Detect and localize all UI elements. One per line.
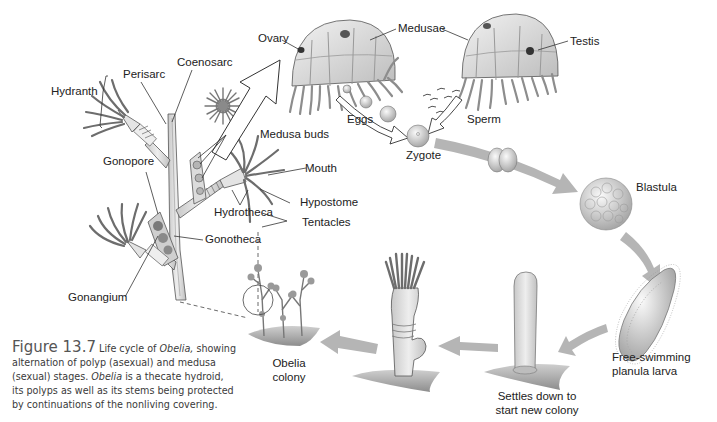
figure-caption: Figure 13.7 Life cycle of Obelia, showin… [12, 340, 237, 412]
label-coenosarc: Coenosarc [177, 57, 233, 69]
label-perisarc: Perisarc [123, 69, 165, 81]
caption-part: Obelia, [160, 343, 194, 354]
gonotheca-bud [164, 246, 173, 255]
label-hypostome: Hypostome [300, 197, 358, 209]
zygote [407, 125, 429, 147]
medusa-bud [193, 161, 201, 169]
hydrotheca-cup-lower-left [126, 240, 146, 258]
label-gonopore: Gonopore [103, 156, 154, 168]
medusa-bud [197, 188, 204, 195]
young-polyp [352, 254, 440, 392]
caption-part: Obelia [91, 371, 122, 382]
label-blastula: Blastula [636, 182, 677, 194]
male-medusa [456, 14, 558, 110]
label-testis: Testis [570, 36, 599, 48]
label-planula-larva: Free-swimming planula larva [612, 350, 672, 378]
label-zygote: Zygote [406, 150, 441, 162]
label-obelia-colony: Obelia colony [264, 356, 314, 384]
label-gonangium: Gonangium [68, 292, 127, 304]
callout-dashed-line [180, 302, 248, 318]
label-settles-down: Settles down to start new colony [492, 389, 582, 417]
arrow-young-polyp-to-colony [320, 330, 378, 354]
label-colony-line2: colony [264, 370, 314, 384]
label-tentacles: Tentacles [302, 217, 351, 229]
female-medusa [290, 20, 402, 114]
label-sperm: Sperm [467, 114, 501, 126]
outline-arrow-sperm [428, 96, 462, 134]
label-gonotheca: Gonotheca [205, 234, 261, 246]
label-settles-line2: start new colony [492, 403, 582, 417]
label-planula-line1: Free-swimming [612, 350, 672, 364]
cleavage-embryo [488, 148, 517, 172]
label-hydrotheca: Hydrotheca [214, 207, 273, 219]
gonotheca-bud [158, 233, 168, 243]
polyp-colony-illustration [84, 60, 306, 318]
label-colony-line1: Obelia [264, 356, 314, 370]
label-ovary: Ovary [258, 33, 289, 45]
label-medusa-buds: Medusa buds [260, 129, 329, 141]
label-hydranth: Hydranth [51, 86, 98, 98]
caption-part: Life cycle of [99, 343, 159, 354]
hydranth-tentacles-lower-left [90, 204, 146, 246]
settled-larva [484, 272, 570, 390]
label-medusae: Medusae [398, 23, 445, 35]
medusa-bud [195, 174, 203, 182]
obelia-colony [243, 264, 320, 346]
figure-number: Figure 13.7 [12, 338, 96, 356]
arrow-planula-to-settled [558, 324, 608, 356]
gonotheca-bud [153, 221, 163, 231]
blastula [580, 178, 632, 230]
arrow-settled-to-young-polyp [438, 336, 498, 356]
label-planula-line2: planula larva [612, 364, 672, 378]
label-mouth: Mouth [305, 163, 337, 175]
label-settles-line1: Settles down to [492, 389, 582, 403]
label-eggs: Eggs [347, 114, 373, 126]
